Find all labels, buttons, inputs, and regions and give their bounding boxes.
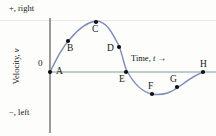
x-axis-label: Time, t → xyxy=(131,54,166,63)
velocity-curve xyxy=(50,21,204,95)
data-point-d xyxy=(117,45,121,49)
point-label-b: B xyxy=(67,44,74,54)
point-label-e: E xyxy=(119,75,125,85)
y-axis-label-text: Velocity, xyxy=(11,52,21,84)
velocity-time-graph-figure: +, right −, left 0 Time, t → Velocity, v… xyxy=(0,0,216,136)
point-label-h: H xyxy=(200,60,207,70)
data-point-g xyxy=(175,85,179,89)
data-point-f xyxy=(150,92,154,96)
point-label-c: C xyxy=(92,25,99,35)
plot-canvas xyxy=(0,0,216,136)
point-label-d: D xyxy=(107,44,114,54)
origin-zero-label: 0 xyxy=(38,59,43,68)
y-axis-label: Velocity, v xyxy=(12,36,21,96)
data-point-a xyxy=(48,70,52,74)
data-point-h xyxy=(201,70,205,74)
x-axis-label-symbol: t xyxy=(153,53,155,63)
negative-direction-label: −, left xyxy=(9,108,29,117)
point-label-a: A xyxy=(56,67,63,77)
y-axis-label-symbol: v xyxy=(11,48,21,52)
point-label-g: G xyxy=(170,75,177,85)
point-label-f: F xyxy=(148,82,153,92)
x-axis-arrow-icon: → xyxy=(157,53,166,63)
x-axis-label-text: Time, xyxy=(131,53,153,63)
positive-direction-label: +, right xyxy=(9,4,34,13)
